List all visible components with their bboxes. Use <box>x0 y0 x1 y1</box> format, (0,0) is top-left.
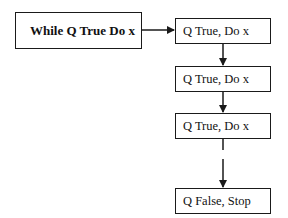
step-box-1: Q True, Do x <box>175 18 271 44</box>
stop-label: Q False, Stop <box>176 194 251 209</box>
stop-box: Q False, Stop <box>175 188 271 214</box>
step-label: Q True, Do x <box>176 72 249 87</box>
start-box: While Q True Do x <box>15 12 142 49</box>
step-label: Q True, Do x <box>176 24 249 39</box>
step-box-2: Q True, Do x <box>175 66 271 92</box>
start-label: While Q True Do x <box>16 23 135 39</box>
step-label: Q True, Do x <box>176 119 249 134</box>
step-box-3: Q True, Do x <box>175 113 271 139</box>
